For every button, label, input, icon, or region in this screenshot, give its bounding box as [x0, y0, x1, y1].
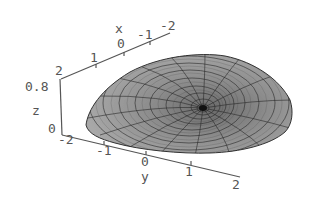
x-tick-neg2: -2	[160, 19, 176, 32]
y-axis-label: y	[141, 170, 149, 183]
z-axis-line	[60, 79, 62, 135]
y-tick-2: 2	[232, 178, 240, 191]
surface-plot	[0, 0, 311, 206]
y-tick-1: 1	[185, 165, 193, 178]
x-tick-0: 0	[117, 37, 125, 50]
y-tick-neg1: -1	[96, 144, 112, 157]
x-tick-1: 1	[90, 51, 98, 64]
z-axis-label: z	[32, 104, 40, 117]
x-tick-neg1: -1	[137, 28, 153, 41]
vortex-center	[199, 105, 207, 111]
z-tick-0: 0	[48, 122, 56, 135]
x-tick-2: 2	[55, 64, 63, 77]
y-tick-neg2: -2	[58, 133, 74, 146]
surface-mesh	[86, 49, 292, 157]
x-axis-label: x	[115, 22, 123, 35]
y-tick-0: 0	[141, 155, 149, 168]
z-tick-0-8: 0.8	[25, 80, 48, 93]
